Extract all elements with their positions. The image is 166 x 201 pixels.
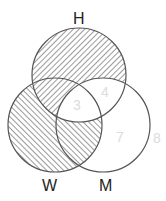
label-m: M	[99, 177, 112, 194]
label-w: W	[42, 177, 58, 194]
region-number-7: 7	[116, 129, 124, 145]
venn-diagram: H W M 3 4 7 8	[0, 0, 166, 201]
label-h: H	[73, 10, 85, 27]
region-number-8: 8	[153, 130, 161, 146]
region-number-4: 4	[101, 84, 109, 100]
region-number-3: 3	[73, 97, 81, 113]
